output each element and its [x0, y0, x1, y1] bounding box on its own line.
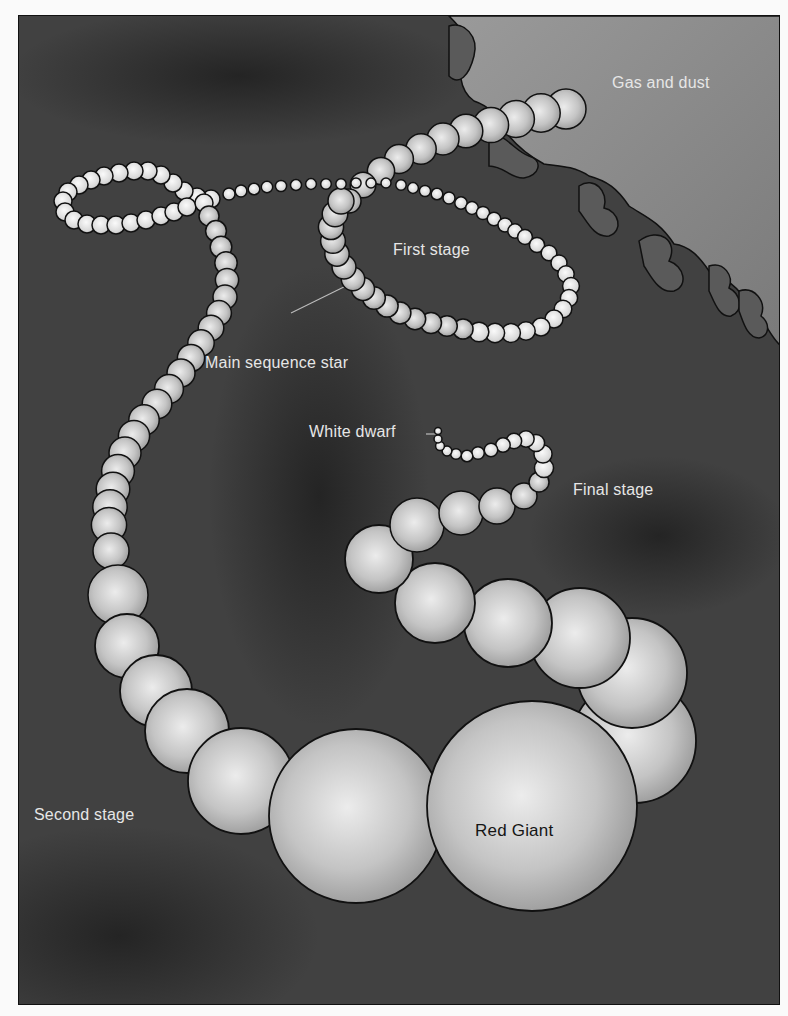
first-stage-bead: [408, 183, 419, 194]
first-stage-bead: [431, 188, 443, 200]
first-stage-bead: [321, 179, 332, 190]
first-stage-bead: [306, 179, 317, 190]
first-stage-bead: [381, 178, 391, 188]
final-stage-bead: [479, 488, 515, 524]
second-stage-bead: [269, 729, 443, 903]
first-stage-bead: [248, 183, 260, 195]
white-dwarf-bead: [434, 435, 442, 443]
final-stage-bead: [439, 491, 483, 535]
first-stage-bead: [396, 180, 406, 190]
white-dwarf-bead: [435, 428, 442, 435]
star-lifecycle-illustration: [19, 16, 780, 1005]
first-stage-bead: [235, 185, 247, 197]
white-dwarf-bead: [472, 447, 485, 460]
label-red-giant: Red Giant: [475, 821, 553, 841]
label-white-dwarf: White dwarf: [309, 423, 396, 441]
second-stage-bead: [93, 533, 129, 569]
final-stage-bead: [464, 579, 552, 667]
first-stage-bead: [275, 180, 286, 191]
final-stage-bead: [390, 498, 444, 552]
main-sequence-bead: [328, 188, 354, 214]
white-dwarf-bead: [484, 443, 498, 457]
label-second-stage: Second stage: [34, 806, 134, 824]
red-giant: [427, 701, 637, 911]
label-first-stage: First stage: [393, 241, 470, 259]
first-stage-bead: [366, 178, 376, 188]
white-dwarf-bead: [461, 450, 473, 462]
dark-cloud: [209, 266, 429, 726]
first-stage-bead: [178, 198, 196, 216]
first-stage-bead: [351, 178, 361, 188]
label-final-stage: Final stage: [573, 481, 653, 499]
label-gas-and-dust: Gas and dust: [612, 74, 710, 92]
first-stage-bead: [261, 181, 272, 192]
first-stage-bead: [223, 188, 235, 200]
first-stage-bead: [419, 185, 430, 196]
label-main-sequence-star: Main sequence star: [205, 354, 348, 372]
first-stage-bead: [443, 192, 455, 204]
diagram-frame: Gas and dust First stage Main sequence s…: [18, 15, 780, 1005]
first-stage-bead: [291, 180, 302, 191]
first-stage-bead: [336, 179, 346, 189]
